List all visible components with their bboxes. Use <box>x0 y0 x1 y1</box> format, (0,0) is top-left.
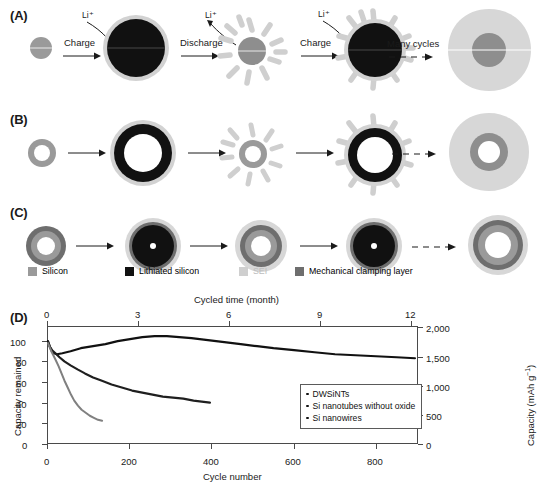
legend-label-lithiated-silicon: Lithiated silicon <box>139 266 199 276</box>
mechanical-clamping-swatch-icon <box>295 267 304 276</box>
legend-marker-icon <box>306 393 309 396</box>
right-tick-0: 0 <box>426 440 431 451</box>
right-tick-1000: 1,000 <box>426 382 450 393</box>
bottom-tick-400: 400 <box>203 456 219 467</box>
chart-legend-label-0: DWSiNTs <box>313 388 350 400</box>
bottom-tickmark-400 <box>211 444 212 449</box>
panel-c-label: (C) <box>10 205 27 220</box>
left-tick-20: 20 <box>16 419 27 430</box>
panel-a-arrow-2 <box>181 51 219 61</box>
right-tick-1500: 1,500 <box>426 353 450 364</box>
panel-a-li-label-3: Li⁺ <box>318 9 330 19</box>
bottom-tickmark-600 <box>294 444 295 449</box>
bottom-tickmark-200 <box>129 444 130 449</box>
bottom-tick-0: 0 <box>44 456 49 467</box>
top-tick-9: 9 <box>317 309 322 320</box>
legend-label-silicon: Silicon <box>42 266 68 276</box>
top-tick-12: 12 <box>405 309 416 320</box>
panel-c-arrow-2 <box>190 241 228 251</box>
right-tick-2000: 2,000 <box>426 323 450 334</box>
panel-b-arrow-dashed <box>392 149 436 159</box>
panel-b-stage-2-lithiated <box>108 118 178 188</box>
chart-legend-item-si-nanotubes: Si nanotubes without oxide <box>306 400 416 412</box>
panel-a-arrow-1 <box>63 51 101 61</box>
materials-legend: Silicon Lithiated silicon SEI Mechanical… <box>28 266 448 282</box>
left-tick-60: 60 <box>16 378 27 389</box>
left-tick-80: 80 <box>16 357 27 368</box>
panel-a-stage-1 <box>24 31 58 65</box>
top-tick-0: 0 <box>44 309 49 320</box>
right-tick-500: 500 <box>426 411 442 422</box>
panel-c-arrow-1 <box>76 241 114 251</box>
chart-legend: DWSiNTs Si nanotubes without oxide Si na… <box>300 384 422 429</box>
legend-marker-icon <box>306 405 309 408</box>
top-tick-3: 3 <box>135 309 140 320</box>
chart-right-axis-title: Capacity (mAh g−1) <box>524 365 536 446</box>
right-tickmark-0 <box>418 444 423 445</box>
panel-b-arrow-3 <box>296 148 334 158</box>
right-tickmark-1500 <box>418 357 423 358</box>
panel-b-arrow-1 <box>68 148 106 158</box>
panel-a-stage-4-lithiated-sei <box>333 8 417 92</box>
panel-b-label: (B) <box>10 112 27 127</box>
chart-legend-item-dwsints: DWSiNTs <box>306 388 416 400</box>
legend-entry-mechanical-clamping-layer: Mechanical clamping layer <box>295 266 413 276</box>
legend-entry-sei: SEI <box>239 266 267 276</box>
bottom-tick-800: 800 <box>367 456 383 467</box>
panel-a-stage-5-final <box>443 6 535 94</box>
left-tick-100: 100 <box>10 337 26 348</box>
panel-a-arrow-dashed <box>389 52 433 62</box>
panel-c-stage-3-delithiated <box>234 219 288 273</box>
left-tick-40: 40 <box>16 399 27 410</box>
chart-top-axis-title: Cycled time (month) <box>194 294 279 305</box>
panel-b-stage-1 <box>22 133 62 173</box>
panel-c-arrow-dashed <box>412 242 456 252</box>
legend-label-sei: SEI <box>253 266 267 276</box>
chart-legend-label-2: Si nanowires <box>313 412 362 424</box>
bottom-tickmark-800 <box>376 444 377 449</box>
sei-swatch-icon <box>239 267 248 276</box>
top-tick-6: 6 <box>226 309 231 320</box>
panel-d-label: (D) <box>10 310 27 325</box>
legend-marker-icon <box>306 417 309 420</box>
right-tickmark-2000 <box>418 327 423 328</box>
figure-root: (A) Charge Li⁺ Discharge Li⁺ <box>0 0 542 489</box>
panel-d-chart: (D) Cycled time (month) 0 3 6 9 12 Capac… <box>0 292 542 489</box>
chart-series-line <box>48 336 415 358</box>
lithiated-silicon-swatch-icon <box>125 267 134 276</box>
panel-b-stage-3-sei-fragments <box>218 122 288 186</box>
silicon-swatch-icon <box>28 267 37 276</box>
legend-entry-lithiated-silicon: Lithiated silicon <box>125 266 199 276</box>
legend-entry-silicon: Silicon <box>28 266 68 276</box>
legend-label-mechanical-clamping-layer: Mechanical clamping layer <box>309 266 413 276</box>
panel-a-li-label-1: Li⁺ <box>82 10 94 20</box>
chart-legend-item-si-nanowires: Si nanowires <box>306 412 416 424</box>
left-tick-0: 0 <box>22 440 27 451</box>
chart-legend-label-1: Si nanotubes without oxide <box>313 400 416 412</box>
panel-c-arrow-3 <box>300 241 338 251</box>
panel-a-step-many-cycles: Many cycles <box>387 38 439 49</box>
bottom-tickmark-0 <box>47 444 48 449</box>
bottom-tick-600: 600 <box>285 456 301 467</box>
panel-c-stage-5-final <box>467 214 529 276</box>
panel-a-stage-3-sei-fragments <box>215 14 289 88</box>
panel-b-stage-5-final <box>445 110 533 194</box>
panel-a-stage-2-lithiated <box>100 12 172 84</box>
chart-bottom-axis-title: Cycle number <box>203 471 262 482</box>
panel-a-label: (A) <box>10 8 27 23</box>
bottom-tick-200: 200 <box>121 456 137 467</box>
panel-c-stage-1 <box>22 222 70 270</box>
